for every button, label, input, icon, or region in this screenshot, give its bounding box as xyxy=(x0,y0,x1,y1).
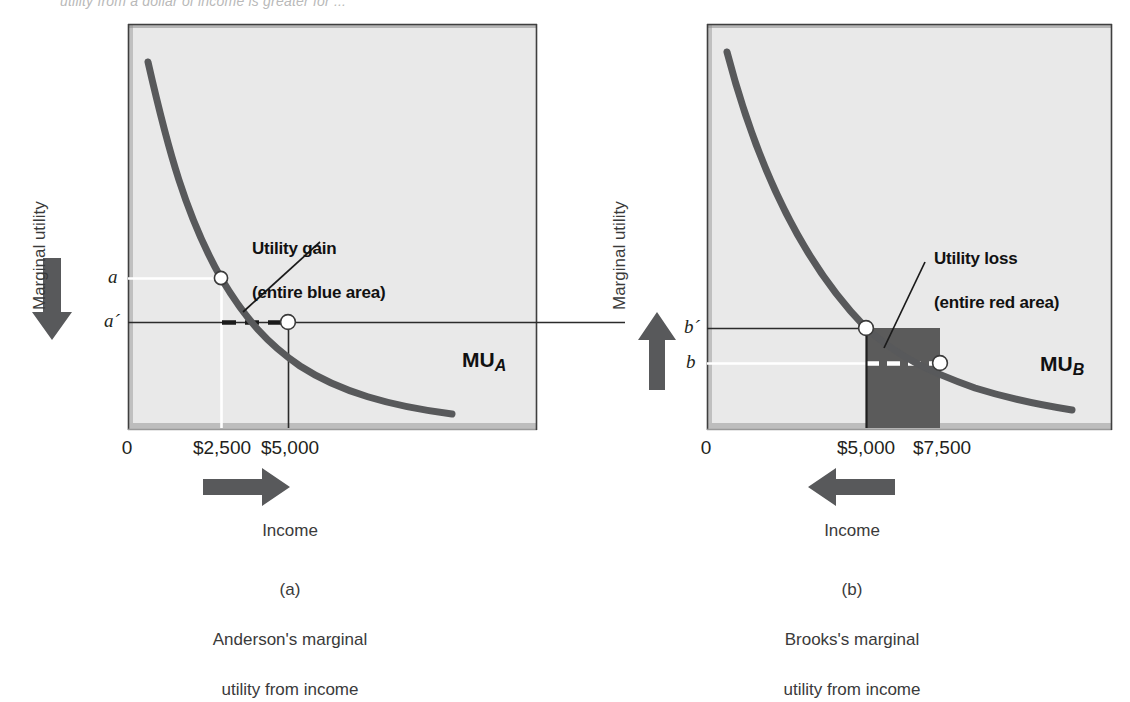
y-point-label-b-prime: b´ xyxy=(684,316,700,338)
point-a-prime xyxy=(281,315,296,330)
y-axis-label-b: Marginal utility xyxy=(610,201,630,310)
callout-utility-gain: Utility gain (entire blue area) xyxy=(252,216,385,304)
utility-loss-shaded-area xyxy=(866,328,940,428)
y-point-label-a-prime: a´ xyxy=(104,310,120,332)
point-b xyxy=(933,356,948,371)
y-point-label-b: b xyxy=(686,351,696,373)
panel-caption-b-line1: Brooks's marginal xyxy=(785,630,920,649)
callout-utility-gain-line2: (entire blue area) xyxy=(252,283,385,302)
x-axis-label-b: Income xyxy=(792,521,912,541)
y-axis-label-a: Marginal utility xyxy=(30,201,50,310)
curve-label-mu-a: MUA xyxy=(462,348,506,375)
panel-caption-a-line2: utility from income xyxy=(222,680,359,699)
panel-letter-b: (b) xyxy=(842,580,863,599)
x-tick-a-5000: $5,000 xyxy=(232,437,348,459)
arrow-right-a xyxy=(203,468,290,506)
curve-label-mu-a-text: MU xyxy=(462,348,495,371)
curve-label-mu-b: MUB xyxy=(1040,352,1084,379)
panel-caption-b-line2: utility from income xyxy=(784,680,921,699)
curve-label-mu-a-subscript: A xyxy=(495,357,507,374)
callout-utility-loss-line1: Utility loss xyxy=(934,249,1018,268)
x-axis-label-a: Income xyxy=(230,521,350,541)
arrow-up-b xyxy=(638,312,676,390)
panel-caption-a-line1: Anderson's marginal xyxy=(213,630,367,649)
origin-label-a: 0 xyxy=(112,437,142,459)
panel-caption-a: (a) Anderson's marginal utility from inc… xyxy=(180,552,400,702)
curve-label-mu-b-subscript: B xyxy=(1073,361,1085,378)
callout-utility-gain-line1: Utility gain xyxy=(252,239,337,258)
x-tick-b-7500: $7,500 xyxy=(884,437,1000,459)
point-a xyxy=(214,271,227,284)
callout-utility-loss-line2: (entire red area) xyxy=(934,293,1059,312)
panel-caption-b: (b) Brooks's marginal utility from incom… xyxy=(742,552,962,702)
origin-label-b: 0 xyxy=(691,437,721,459)
y-point-label-a: a xyxy=(108,266,118,288)
point-b-prime xyxy=(859,321,874,336)
arrow-left-b xyxy=(808,468,895,506)
panel-letter-a: (a) xyxy=(280,580,301,599)
curve-label-mu-b-text: MU xyxy=(1040,352,1073,375)
callout-utility-loss: Utility loss (entire red area) xyxy=(934,226,1059,314)
